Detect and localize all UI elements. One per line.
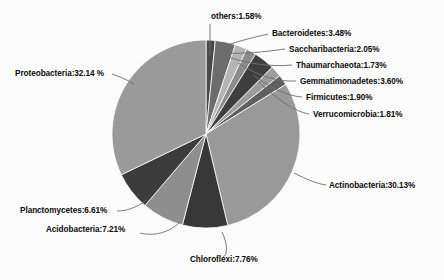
pie-label-others: others:1.58%	[211, 12, 262, 21]
leader-line-acidobacteria	[140, 222, 180, 234]
pie-label-gemmatimonadetes: Gemmatimonadetes:3.60%	[300, 77, 404, 86]
pie-label-firmicutes: Firmicutes:1.90%	[306, 93, 373, 102]
pie-label-verrucomicrobia: Verrucomicrobia:1.81%	[313, 110, 403, 119]
pie-label-chloroflexi: Chloroflexi:7.76%	[190, 255, 259, 264]
pie-label-saccharibacteria: Saccharibacteria:2.05%	[289, 45, 380, 54]
pie-chart-svg: others:1.58%Bacteroidetes:3.48%Saccharib…	[0, 0, 444, 280]
pie-label-proteobacteria: Proteobacteria:32.14 %	[15, 69, 105, 78]
pie-label-thaumarchaeota: Thaumarchaeota:1.73%	[296, 61, 387, 70]
pie-chart-figure: others:1.58%Bacteroidetes:3.48%Saccharib…	[0, 0, 444, 280]
leader-line-actinobacteria	[294, 173, 326, 185]
pie-label-bacteroidetes: Bacteroidetes:3.48%	[272, 29, 352, 38]
pie-label-actinobacteria: Actinobacteria:30.13%	[329, 181, 416, 190]
pie-label-planctomycetes: Planctomycetes:6.61%	[20, 206, 108, 215]
pie-slices-group	[112, 40, 300, 228]
pie-label-acidobacteria: Acidobacteria:7.21%	[46, 225, 126, 234]
